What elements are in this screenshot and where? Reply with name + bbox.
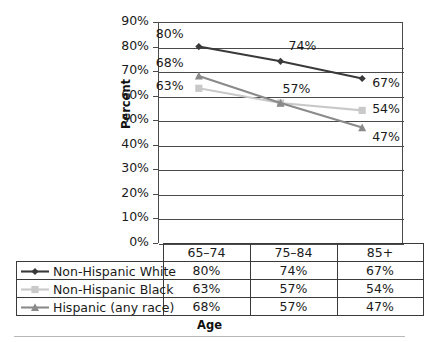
footer-rule (14, 336, 405, 337)
legend-marker-icon (20, 265, 50, 278)
legend-label: Non-Hispanic Black (53, 282, 173, 297)
data-point-label: 74% (289, 39, 317, 52)
series-marker (359, 107, 366, 114)
table-value-cell: 68% (163, 298, 250, 316)
table-value-cell: 57% (250, 298, 337, 316)
series-marker (359, 75, 366, 82)
legend-entry[interactable]: Non-Hispanic White (17, 262, 164, 280)
data-table: 65–7475–8485+Non-Hispanic White80%74%67%… (16, 243, 424, 316)
table-row: Hispanic (any race)68%57%47% (17, 298, 424, 316)
legend-marker-icon (20, 283, 50, 296)
legend-label: Hispanic (any race) (53, 300, 174, 315)
data-point-label: 54% (372, 102, 400, 115)
data-point-label: 63% (156, 79, 184, 92)
table-corner-cell (17, 244, 164, 262)
table-value-cell: 74% (250, 262, 337, 280)
table-row: Non-Hispanic Black63%57%54% (17, 280, 424, 298)
series-marker (277, 58, 284, 65)
table-header-cell: 85+ (337, 244, 423, 262)
series-marker (195, 43, 202, 50)
table-header-cell: 65–74 (163, 244, 250, 262)
table-row: Non-Hispanic White80%74%67% (17, 262, 424, 280)
data-point-label: 47% (372, 130, 400, 143)
x-axis-title: Age (0, 318, 419, 332)
legend-label: Non-Hispanic White (53, 264, 176, 279)
legend-entry[interactable]: Non-Hispanic Black (17, 280, 164, 298)
data-point-label: 68% (156, 56, 184, 69)
table-header-cell: 75–84 (250, 244, 337, 262)
legend-marker-icon (20, 301, 50, 314)
table-header-row: 65–7475–8485+ (17, 244, 424, 262)
legend-entry[interactable]: Hispanic (any race) (17, 298, 164, 316)
table-value-cell: 80% (163, 262, 250, 280)
data-point-label: 67% (372, 76, 400, 89)
table-value-cell: 54% (337, 280, 423, 298)
table-value-cell: 57% (250, 280, 337, 298)
table-value-cell: 67% (337, 262, 423, 280)
series-marker (195, 85, 202, 92)
series-marker (195, 72, 203, 80)
table-value-cell: 47% (337, 298, 423, 316)
data-point-label: 80% (156, 27, 184, 40)
table-value-cell: 63% (163, 280, 250, 298)
data-point-label: 57% (283, 82, 311, 95)
